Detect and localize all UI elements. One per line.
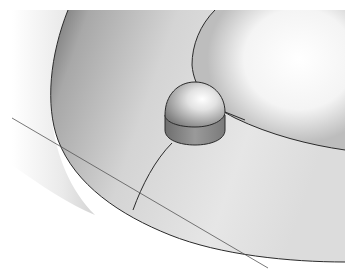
torus-render xyxy=(0,0,353,280)
